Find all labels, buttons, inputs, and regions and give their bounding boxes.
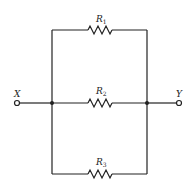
branch-r2: [20, 99, 176, 107]
branch-r3: [52, 170, 147, 178]
terminal-y-icon: [177, 101, 182, 106]
label-r2: R2: [95, 86, 107, 97]
label-r3: R3: [95, 157, 107, 168]
resistor-r3-icon: [88, 170, 112, 178]
label-r1: R1: [95, 14, 107, 25]
label-terminal-x: X: [13, 89, 21, 99]
junction-right-icon: [145, 101, 149, 105]
label-terminal-y: Y: [176, 89, 183, 99]
branch-r1: [52, 26, 147, 34]
resistor-r2-icon: [88, 99, 112, 107]
resistor-r1-icon: [88, 26, 112, 34]
terminal-x-icon: [15, 101, 20, 106]
junction-left-icon: [50, 101, 54, 105]
parallel-circuit-diagram: R1 R2 R3 X Y: [0, 0, 191, 195]
